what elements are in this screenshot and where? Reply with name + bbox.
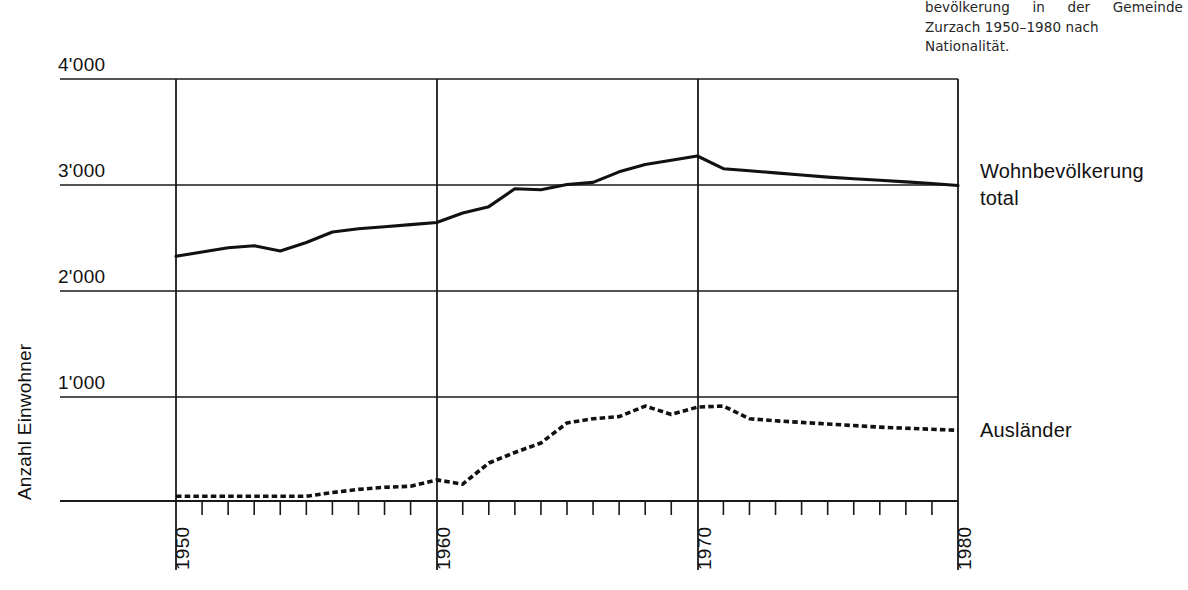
series-line-foreign (176, 406, 958, 496)
horizontal-gridlines (60, 79, 958, 501)
chart-page: bevölkerung in der Gemeinde Zurzach 1950… (0, 0, 1188, 590)
y-axis-title: Anzahl Einwohner (14, 344, 36, 500)
series-label-total: Wohnbevölkerung total (980, 158, 1144, 212)
x-tick-label-1970: 1970 (694, 527, 716, 570)
series-label-foreign: Ausländer (980, 417, 1072, 444)
series-label-total-line1: Wohnbevölkerung (980, 160, 1144, 182)
y-tick-label-1000: 1'000 (58, 372, 105, 394)
x-tick-label-1980: 1980 (954, 527, 976, 570)
chart-plot-area (0, 0, 1188, 590)
y-tick-label-3000: 3'000 (58, 160, 105, 182)
y-tick-label-4000: 4'000 (58, 54, 105, 76)
x-tick-label-1960: 1960 (433, 527, 455, 570)
x-axis-minor-ticks (202, 501, 932, 515)
series-line-total (176, 156, 958, 256)
x-tick-label-1950: 1950 (172, 527, 194, 570)
y-tick-label-2000: 2'000 (58, 266, 105, 288)
series-label-total-line2: total (980, 187, 1019, 209)
